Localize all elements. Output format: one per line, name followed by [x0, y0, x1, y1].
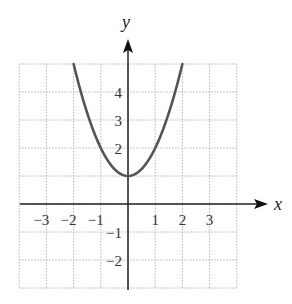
- y-axis-label: y: [120, 12, 130, 32]
- x-tick-label: 2: [179, 212, 187, 228]
- x-tick-label: −2: [61, 212, 77, 228]
- y-tick-label: −1: [106, 225, 122, 241]
- x-tick-label: 3: [206, 212, 214, 228]
- axes: x y: [20, 12, 282, 290]
- x-tick-label: −3: [33, 212, 49, 228]
- y-tick-label: −2: [106, 253, 122, 269]
- x-axis-label: x: [273, 194, 282, 214]
- y-tick-label: 3: [115, 113, 123, 129]
- tick-labels: −3−2−1123432−1−2: [33, 85, 213, 269]
- y-tick-label: 2: [115, 141, 123, 157]
- x-tick-label: −1: [88, 212, 104, 228]
- x-tick-label: 1: [151, 212, 159, 228]
- parabola-chart: x y −3−2−1123432−1−2: [0, 0, 292, 304]
- y-tick-label: 4: [115, 85, 123, 101]
